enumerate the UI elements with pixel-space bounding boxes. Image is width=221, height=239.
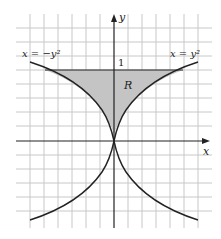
y-axis-label: y [118,11,126,24]
left-curve-label: x = −y² [22,48,60,59]
y-axis-arrow-icon [111,14,117,22]
region-label: R [123,79,132,92]
tick-label-1: 1 [118,57,124,68]
x-axis-label: x [203,145,210,158]
right-curve-label: x = y² [170,48,200,59]
x-axis-arrow-icon [202,138,210,144]
diagram: y x 1 x = −y² x = y² R [0,0,221,239]
